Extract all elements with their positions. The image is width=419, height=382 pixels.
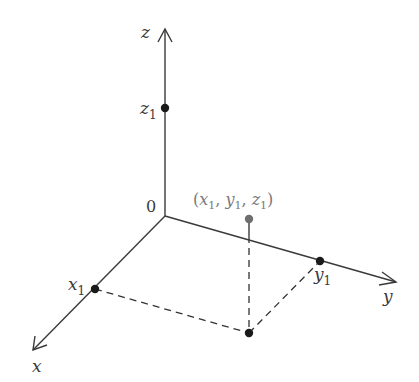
x1-label: x1 — [68, 274, 85, 298]
x1-point — [91, 285, 99, 293]
x-axis-label: x — [32, 356, 42, 376]
y-axis — [165, 216, 396, 282]
z1-label: z1 — [139, 98, 157, 122]
y-axis-label: y — [382, 286, 393, 306]
origin-label: 0 — [146, 197, 156, 216]
target-point — [245, 215, 253, 223]
y1-label: y1 — [313, 264, 331, 288]
dashed-line-x1-to-base — [95, 289, 249, 333]
x-axis — [33, 216, 165, 350]
z-axis-label: z — [140, 22, 151, 42]
dashed-line-base-to-y1 — [249, 261, 320, 333]
target-point-label: (x1, y1, z1) — [193, 190, 273, 212]
z1-point — [161, 104, 169, 112]
coordinate-diagram: z y x 0 z1 x1 y1 (x1, y1, z1) — [0, 0, 419, 382]
base-projection-point — [245, 329, 253, 337]
